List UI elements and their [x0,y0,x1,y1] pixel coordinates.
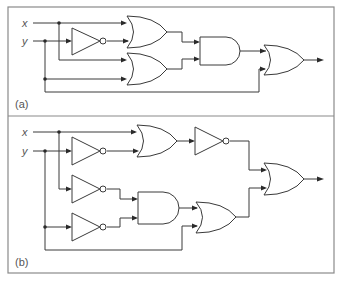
panel-a: x y (a) [15,16,324,110]
not-gate [72,213,106,241]
input-x-label: x [21,17,28,29]
or-gate [137,125,177,157]
or-gate [196,202,236,233]
not-gate [195,127,229,155]
junction-dot [43,149,47,153]
not-gate [72,137,106,165]
junction-dot [57,130,61,134]
input-y-label: y [21,145,29,157]
panel-b: x y (b) [15,125,324,268]
panel-b-label: (b) [15,256,28,268]
or-gate [127,16,167,48]
input-y-label: y [21,35,29,47]
not-gate [72,28,106,55]
and-gate [138,192,179,224]
panel-a-label: (a) [15,98,28,110]
or-gate-output [264,45,304,75]
input-x-label: x [21,126,28,138]
junction-dot [43,225,47,229]
and-gate [200,37,240,65]
or-gate-output [264,163,304,195]
logic-circuit-figure: x y (a) [0,0,340,282]
or-gate [127,53,167,85]
junction-dot [43,77,47,81]
not-gate [72,175,106,203]
junction-dot [43,39,47,43]
junction-dot [57,21,61,25]
